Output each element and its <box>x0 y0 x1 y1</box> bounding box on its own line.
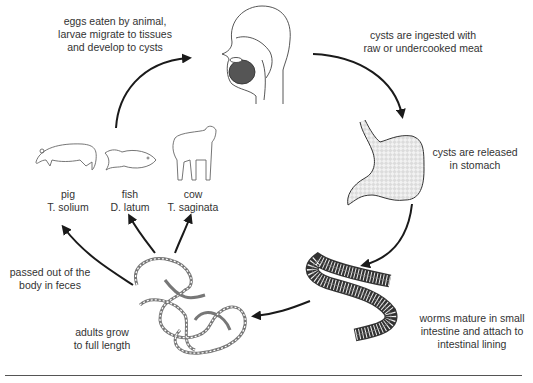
host-pig-label: pig T. solium <box>38 188 98 214</box>
arrow-stomach-to-intestine <box>364 204 412 265</box>
arrow-worms-to-fish <box>130 217 155 253</box>
cow-icon <box>173 126 216 180</box>
fish-icon <box>105 150 156 170</box>
stomach-icon <box>348 120 424 205</box>
label-cysts-ingested: cysts are ingested with raw or undercook… <box>358 29 488 55</box>
label-cysts-released: cysts are released in stomach <box>420 146 530 172</box>
label-worms-mature: worms mature in small intestine and atta… <box>412 312 532 351</box>
pig-icon <box>36 144 96 170</box>
tapeworm-icon <box>136 259 246 353</box>
arrow-human-to-stomach <box>313 54 402 115</box>
arrow-worms-to-cow <box>175 217 190 253</box>
label-adults-grow: adults grow to full length <box>62 326 142 352</box>
label-eggs-eaten: eggs eaten by animal, larvae migrate to … <box>50 15 180 54</box>
arrow-animals-to-human <box>116 58 188 128</box>
label-passed-out: passed out of the body in feces <box>2 266 98 292</box>
arrow-intestine-to-worms <box>255 301 310 316</box>
intestine-icon <box>312 260 391 335</box>
human-head-icon <box>222 6 290 104</box>
bottom-divider <box>5 375 522 376</box>
host-fish-label: fish D. latum <box>100 188 160 214</box>
host-cow-label: cow T. saginata <box>160 188 226 214</box>
